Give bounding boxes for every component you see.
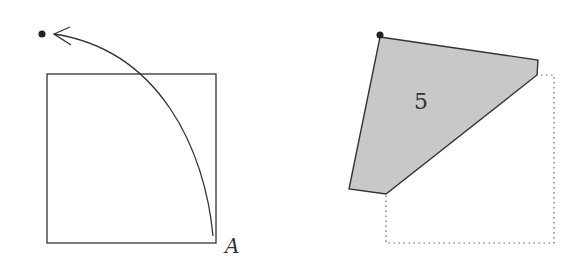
diagram-canvas: A 5: [0, 0, 586, 273]
corner-dot: [377, 32, 384, 39]
folded-polygon: [349, 37, 538, 194]
region-label-5: 5: [414, 89, 428, 114]
left-panel: A: [39, 27, 240, 258]
square: [47, 74, 216, 243]
rotation-arc: [54, 34, 213, 236]
start-point-dot: [39, 31, 46, 38]
vertex-label-a: A: [223, 234, 239, 258]
right-panel: 5: [349, 32, 554, 244]
